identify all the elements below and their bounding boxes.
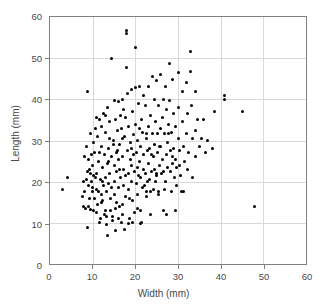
- data-point: [180, 190, 183, 193]
- data-point: [187, 151, 190, 154]
- data-point: [168, 62, 171, 65]
- xtick-label-60: 60: [302, 271, 313, 282]
- data-point: [115, 201, 118, 204]
- data-point: [177, 137, 180, 140]
- data-point: [134, 123, 137, 126]
- data-point: [138, 127, 141, 130]
- data-point: [155, 79, 158, 82]
- data-point: [142, 94, 145, 97]
- data-point: [129, 158, 132, 161]
- data-point: [81, 195, 84, 198]
- data-point: [86, 226, 89, 229]
- xtick-label-30: 30: [173, 271, 184, 282]
- data-point: [110, 186, 113, 189]
- data-point: [111, 215, 114, 218]
- data-point: [107, 160, 110, 163]
- data-point: [110, 155, 113, 158]
- data-point: [132, 133, 135, 136]
- data-point: [108, 137, 111, 140]
- data-point: [102, 184, 105, 187]
- data-point: [113, 99, 116, 102]
- data-point: [86, 90, 89, 93]
- data-point: [108, 120, 111, 123]
- data-point: [133, 211, 136, 214]
- data-point: [127, 125, 130, 128]
- xtick-mark-10: [92, 265, 93, 269]
- data-point: [153, 168, 156, 171]
- xtick-label-20: 20: [130, 271, 141, 282]
- data-point: [174, 158, 177, 161]
- data-point: [134, 46, 137, 49]
- data-point: [171, 78, 174, 81]
- data-point: [100, 193, 103, 196]
- data-point: [136, 139, 139, 142]
- data-point: [96, 135, 99, 138]
- data-point: [109, 209, 112, 212]
- data-point: [135, 182, 138, 185]
- data-point: [185, 132, 188, 135]
- data-point: [103, 153, 106, 156]
- data-point: [131, 199, 134, 202]
- data-point: [194, 90, 197, 93]
- data-point: [104, 176, 107, 179]
- data-point: [83, 190, 86, 193]
- data-point: [98, 221, 101, 224]
- data-point: [200, 137, 203, 140]
- data-point: [91, 190, 94, 193]
- data-point: [156, 151, 159, 154]
- ytick-label-50: 50: [22, 52, 42, 63]
- data-point: [145, 190, 148, 193]
- data-point: [107, 182, 110, 185]
- data-point: [132, 153, 135, 156]
- data-point: [181, 90, 184, 93]
- data-point: [106, 234, 109, 237]
- data-point: [189, 70, 192, 73]
- data-point: [118, 143, 121, 146]
- data-point: [182, 145, 185, 148]
- data-point: [147, 85, 150, 88]
- data-point: [117, 217, 120, 220]
- data-point: [124, 195, 127, 198]
- data-point: [114, 118, 117, 121]
- data-point: [128, 217, 131, 220]
- xtick-mark-30: [178, 265, 179, 269]
- data-point: [194, 155, 197, 158]
- data-point: [155, 172, 158, 175]
- data-point: [186, 112, 189, 115]
- data-point: [114, 207, 117, 210]
- data-point: [96, 203, 99, 206]
- ytick-label-30: 30: [22, 135, 42, 146]
- data-point: [66, 176, 69, 179]
- data-point: [99, 217, 102, 220]
- ytick-label-20: 20: [22, 177, 42, 188]
- data-point: [108, 172, 111, 175]
- data-point: [113, 164, 116, 167]
- data-point: [164, 180, 167, 183]
- data-point: [140, 118, 143, 121]
- data-point: [213, 110, 216, 113]
- data-point: [198, 145, 201, 148]
- data-point: [113, 193, 116, 196]
- data-point: [125, 66, 128, 69]
- data-point: [93, 151, 96, 154]
- data-point: [121, 203, 124, 206]
- data-point: [165, 153, 168, 156]
- xtick-mark-50: [264, 265, 265, 269]
- data-point: [135, 151, 138, 154]
- xtick-label-0: 0: [46, 271, 51, 282]
- data-point: [190, 104, 193, 107]
- data-point: [206, 139, 209, 142]
- data-point: [172, 112, 175, 115]
- data-point: [144, 172, 147, 175]
- data-point: [117, 158, 120, 161]
- data-point: [141, 131, 144, 134]
- data-point: [170, 190, 173, 193]
- data-point: [120, 221, 123, 224]
- data-point: [166, 141, 169, 144]
- data-point: [116, 149, 119, 152]
- data-point: [178, 164, 181, 167]
- data-point: [122, 168, 125, 171]
- data-point: [145, 132, 148, 135]
- data-point: [147, 162, 150, 165]
- data-point: [171, 162, 174, 165]
